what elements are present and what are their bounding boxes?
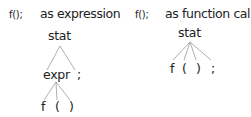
edge-expr-f xyxy=(44,82,56,100)
panel-caption: as function call xyxy=(165,8,251,21)
tree-node-rparen: ) xyxy=(69,101,74,114)
code-snippet: f(); xyxy=(9,10,23,20)
tree-node-f: f xyxy=(41,101,45,114)
tree-node-stat: stat xyxy=(178,27,201,40)
edge-stat-f xyxy=(173,42,190,60)
edge-expr-rparen xyxy=(56,82,70,100)
tree-node-lparen: ( xyxy=(182,63,187,76)
tree-node-expr: expr xyxy=(43,69,70,82)
parse-tree-diagram: f(); as expression stat expr ; f ( ) f()… xyxy=(0,0,251,117)
tree-node-lparen: ( xyxy=(55,101,60,114)
panel-caption: as expression xyxy=(40,8,120,21)
edge-expr-lparen xyxy=(56,82,57,100)
tree-node-f: f xyxy=(170,63,174,76)
code-snippet: f(); xyxy=(135,10,149,20)
tree-node-stat: stat xyxy=(48,30,71,43)
tree-node-rparen: ) xyxy=(196,63,201,76)
tree-node-semicolon: ; xyxy=(211,63,215,76)
tree-node-semicolon: ; xyxy=(77,69,81,82)
